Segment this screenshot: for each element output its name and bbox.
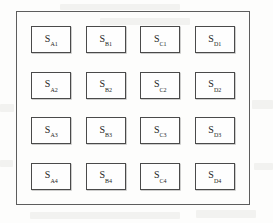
grid-cell: SB3 <box>79 108 134 154</box>
module-box-d2[interactable]: SD2 <box>195 72 235 99</box>
grid-cell: SA1 <box>24 17 79 63</box>
scan-artifact <box>254 163 273 170</box>
grid-cell: SC1 <box>133 17 188 63</box>
figure-screenshot: SA1 SB1 SC1 SD1 SA2 SB2 <box>0 0 273 223</box>
module-label-a1: SA1 <box>45 34 58 46</box>
module-label-c1: SC1 <box>154 34 167 46</box>
module-box-c4[interactable]: SC4 <box>140 163 180 190</box>
grid-cell: SB1 <box>79 17 134 63</box>
module-label-b3: SB3 <box>99 125 112 137</box>
module-label-b2: SB2 <box>99 79 112 91</box>
grid-cell: SD4 <box>188 154 243 200</box>
grid-cell: SC4 <box>133 154 188 200</box>
grid-cell: SB4 <box>79 154 134 200</box>
module-label-a2: SA2 <box>45 79 58 91</box>
module-box-d4[interactable]: SD4 <box>195 163 235 190</box>
grid-cell: SC3 <box>133 108 188 154</box>
grid-cell: SD2 <box>188 63 243 109</box>
module-box-a1[interactable]: SA1 <box>31 26 71 53</box>
module-label-c3: SC3 <box>154 125 167 137</box>
grid-cell: SD1 <box>188 17 243 63</box>
grid-cell: SA3 <box>24 108 79 154</box>
module-label-b1: SB1 <box>99 34 112 46</box>
module-box-b4[interactable]: SB4 <box>86 163 126 190</box>
scan-artifact <box>0 104 14 112</box>
scan-artifact <box>30 212 180 219</box>
module-box-a2[interactable]: SA2 <box>31 72 71 99</box>
module-label-a3: SA3 <box>45 125 58 137</box>
module-label-d3: SD3 <box>208 125 221 137</box>
module-box-b1[interactable]: SB1 <box>86 26 126 53</box>
module-label-c4: SC4 <box>154 170 167 182</box>
module-box-a3[interactable]: SA3 <box>31 117 71 144</box>
grid-cell: SC2 <box>133 63 188 109</box>
scan-artifact <box>60 4 180 10</box>
module-label-d2: SD2 <box>208 79 221 91</box>
module-box-c3[interactable]: SC3 <box>140 117 180 144</box>
module-label-d1: SD1 <box>208 34 221 46</box>
module-box-b3[interactable]: SB3 <box>86 117 126 144</box>
module-label-a4: SA4 <box>45 170 58 182</box>
module-box-d3[interactable]: SD3 <box>195 117 235 144</box>
module-box-c1[interactable]: SC1 <box>140 26 180 53</box>
grid-cell: SA4 <box>24 154 79 200</box>
module-box-c2[interactable]: SC2 <box>140 72 180 99</box>
grid-cell: SB2 <box>79 63 134 109</box>
module-box-b2[interactable]: SB2 <box>86 72 126 99</box>
module-label-d4: SD4 <box>208 170 221 182</box>
scan-artifact <box>0 160 13 167</box>
grid-cell: SD3 <box>188 108 243 154</box>
module-label-b4: SB4 <box>99 170 112 182</box>
module-grid: SA1 SB1 SC1 SD1 SA2 SB2 <box>24 17 242 199</box>
module-box-d1[interactable]: SD1 <box>195 26 235 53</box>
scan-artifact <box>252 100 273 109</box>
grid-cell: SA2 <box>24 63 79 109</box>
scan-artifact <box>196 210 256 218</box>
module-box-a4[interactable]: SA4 <box>31 163 71 190</box>
module-label-c2: SC2 <box>154 79 167 91</box>
